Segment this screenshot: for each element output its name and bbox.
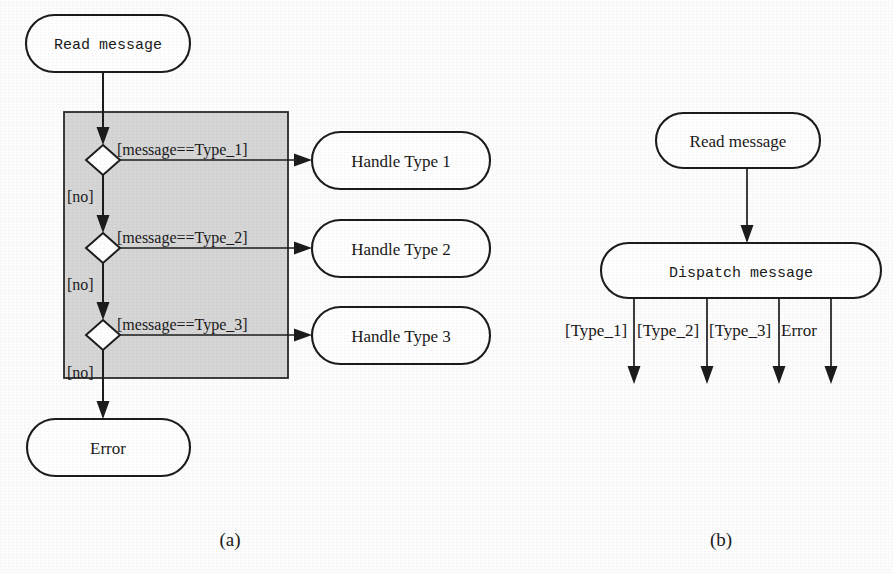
branch-label-3: [Type_3] [709, 321, 771, 340]
diagram-a: Read message [message==Type_1] [no] [26, 15, 490, 551]
node-dispatch-message-label: Dispatch message [669, 265, 813, 282]
node-handle-type-3-label: Handle Type 3 [351, 327, 451, 346]
node-handle-type-2-label: Handle Type 2 [351, 240, 451, 259]
arrowhead-branch-2 [701, 366, 714, 384]
guard-label-1: [message==Type_1] [117, 141, 248, 159]
node-read-message-a[interactable]: Read message [26, 15, 190, 72]
node-handle-type-2[interactable]: Handle Type 2 [312, 220, 490, 277]
branch-label-2: [Type_2] [637, 321, 699, 340]
node-dispatch-message[interactable]: Dispatch message [601, 243, 881, 298]
arrowhead-handler-1 [294, 154, 312, 167]
node-read-message-b[interactable]: Read message [656, 113, 820, 168]
arrowhead-branch-1 [628, 366, 641, 384]
no-label-2: [no] [67, 276, 94, 293]
node-handle-type-1-label: Handle Type 1 [351, 152, 451, 171]
arrowhead-handler-3 [294, 329, 312, 342]
node-read-message-a-label: Read message [54, 37, 162, 54]
node-handle-type-3[interactable]: Handle Type 3 [312, 307, 490, 364]
arrowhead-branch-3 [773, 366, 786, 384]
node-error-label: Error [90, 439, 126, 458]
arrowhead-handler-2 [294, 242, 312, 255]
node-error[interactable]: Error [27, 419, 190, 476]
diagram-b: Read message Dispatch message [Type_1] [… [565, 113, 881, 551]
node-read-message-b-label: Read message [690, 132, 787, 151]
arrowhead-dispatch [741, 225, 754, 243]
figure-canvas: Read message [message==Type_1] [no] [0, 0, 893, 573]
caption-b: (b) [710, 529, 732, 551]
branch-label-1: [Type_1] [565, 321, 627, 340]
arrowhead-error [97, 401, 110, 419]
guard-label-2: [message==Type_2] [117, 229, 248, 247]
node-handle-type-1[interactable]: Handle Type 1 [312, 132, 490, 189]
branch-label-4: Error [781, 321, 817, 340]
activity-diagram-svg: Read message [message==Type_1] [no] [0, 0, 893, 573]
no-label-1: [no] [67, 188, 94, 205]
caption-a: (a) [219, 529, 240, 551]
arrowhead-branch-4 [825, 366, 838, 384]
guard-label-3: [message==Type_3] [117, 316, 248, 334]
no-label-3: [no] [67, 364, 94, 381]
